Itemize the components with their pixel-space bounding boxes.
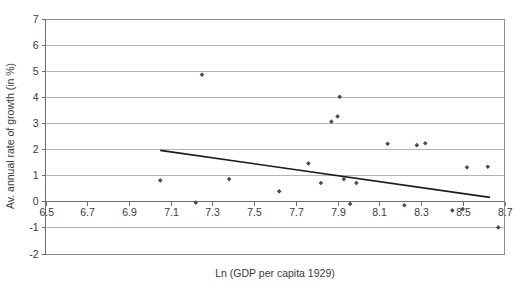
- x-tick-label: 7.9: [331, 206, 346, 218]
- x-tick-label: 8.1: [372, 206, 387, 218]
- plot-background: [46, 19, 505, 254]
- chart-canvas: 76543210-1-26.56.76.97.17.37.57.77.98.18…: [0, 0, 522, 289]
- x-tick-label: 7.1: [164, 206, 179, 218]
- y-tick-label: 7: [33, 13, 39, 25]
- x-tick-label: 8.7: [498, 206, 513, 218]
- y-axis-title: Av. annual rate of growth (in %): [4, 63, 16, 209]
- x-tick-label: 6.5: [40, 206, 55, 218]
- y-tick-label: 4: [33, 91, 39, 103]
- scatter-chart: 76543210-1-26.56.76.97.17.37.57.77.98.18…: [0, 0, 522, 289]
- x-axis-title: Ln (GDP per capita 1929): [215, 267, 334, 279]
- x-tick-label: 8.5: [456, 206, 471, 218]
- y-tick-label: 1: [33, 169, 39, 181]
- y-tick-label: 2: [33, 143, 39, 155]
- y-tick-label: 0: [33, 195, 39, 207]
- y-tick-label: -2: [29, 248, 38, 260]
- y-tick-label: -1: [29, 221, 38, 233]
- x-tick-label: 6.9: [122, 206, 137, 218]
- x-tick-label: 7.5: [247, 206, 262, 218]
- y-tick-label: 3: [33, 117, 39, 129]
- x-tick-label: 7.3: [205, 206, 220, 218]
- y-tick-label: 5: [33, 65, 39, 77]
- x-tick-label: 6.7: [80, 206, 95, 218]
- y-tick-label: 6: [33, 39, 39, 51]
- x-tick-label: 7.7: [289, 206, 304, 218]
- x-tick-label: 8.3: [414, 206, 429, 218]
